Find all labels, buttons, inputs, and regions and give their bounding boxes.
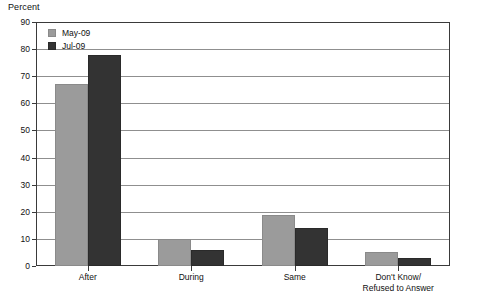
y-tick-label-50: 50: [2, 125, 30, 135]
bar: [191, 250, 224, 266]
bar: [365, 252, 398, 266]
y-tick-label-60: 60: [2, 98, 30, 108]
bar-group: [262, 22, 328, 266]
bar-group: [55, 22, 121, 266]
y-tick-label-0: 0: [2, 261, 30, 271]
bar: [262, 215, 295, 267]
bar: [158, 239, 191, 266]
legend-label: Jul-09: [62, 41, 85, 51]
bars-layer: [36, 22, 450, 266]
y-axis-title: Percent: [8, 2, 40, 12]
bar-group: [365, 22, 431, 266]
y-tick-label-70: 70: [2, 71, 30, 81]
legend-label: May-09: [62, 28, 90, 38]
bar-group: [158, 22, 224, 266]
x-tick-mark: [398, 266, 399, 271]
x-tick-mark: [295, 266, 296, 271]
legend-item: May-09: [48, 26, 90, 39]
y-tick-label-10: 10: [2, 234, 30, 244]
y-tick-label-20: 20: [2, 207, 30, 217]
bar: [398, 258, 431, 266]
y-tick-label-90: 90: [2, 17, 30, 27]
y-tick-label-80: 80: [2, 44, 30, 54]
bar: [295, 228, 328, 266]
bar: [88, 55, 121, 266]
x-tick-mark: [191, 266, 192, 271]
chart-legend: May-09Jul-09: [48, 26, 90, 52]
x-tick-mark: [88, 266, 89, 271]
legend-item: Jul-09: [48, 39, 90, 52]
y-tick-mark-0: [32, 266, 36, 267]
legend-swatch-icon: [48, 42, 56, 50]
x-tick-label-line: Don't Know/: [328, 272, 468, 283]
y-tick-label-30: 30: [2, 180, 30, 190]
bar: [55, 84, 88, 266]
x-tick-label: Don't Know/Refused to Answer: [328, 272, 468, 294]
x-tick-label-line: Refused to Answer: [328, 283, 468, 294]
y-tick-label-40: 40: [2, 153, 30, 163]
legend-swatch-icon: [48, 29, 56, 37]
bar-chart: Percent 0102030405060708090 AfterDuringS…: [0, 0, 484, 301]
